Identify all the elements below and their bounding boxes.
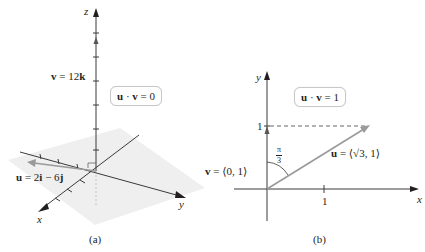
x-tick-label: 1	[322, 196, 328, 207]
v-vector-arrow-icon	[265, 126, 270, 134]
y-axis-label: y	[256, 71, 261, 83]
figure-panel-a: z y x v = 12k u = 2i − 6j u · v = 0 (a)	[0, 0, 212, 252]
caption-b: (b)	[313, 233, 326, 245]
y-arrow-icon	[264, 71, 270, 80]
caption-a: (a)	[89, 233, 101, 245]
x-arrow-icon	[38, 203, 49, 212]
angle-label: π3	[276, 146, 282, 165]
z-arrow-icon	[93, 8, 99, 17]
y-axis-label: y	[179, 198, 184, 210]
x-arrow-icon	[410, 186, 419, 192]
u-vector-label: u = 2i − 6j	[16, 172, 63, 183]
2d-axes-diagram	[212, 0, 425, 252]
z-axis-label: z	[84, 5, 88, 17]
figure-panel-b: y x 1 1 π3 v = ⟨0, 1⟩ u = ⟨√3, 1⟩ u · v …	[212, 0, 425, 252]
u-vector-label: u = ⟨√3, 1⟩	[331, 148, 380, 159]
y-tick-label: 1	[257, 121, 263, 132]
x-axis-label: x	[37, 213, 42, 225]
x-axis-label: x	[417, 193, 422, 205]
v-vector-label: v = ⟨0, 1⟩	[205, 166, 247, 177]
3d-axes-diagram	[0, 0, 212, 252]
v-vector-arrow-icon	[94, 37, 99, 44]
v-vector-label: v = 12k	[51, 71, 85, 82]
dot-product-box: u · v = 1	[294, 87, 346, 107]
dot-product-box: u · v = 0	[110, 86, 162, 106]
